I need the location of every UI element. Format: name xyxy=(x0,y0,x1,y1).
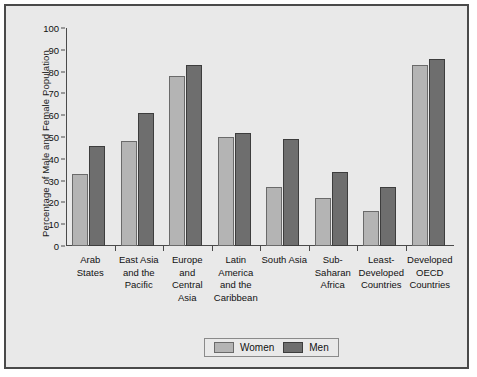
bar-group xyxy=(66,28,115,246)
bar-group xyxy=(406,28,455,246)
y-axis-tick-mark xyxy=(61,158,65,159)
x-axis-separator xyxy=(115,246,116,251)
bar-women xyxy=(363,211,379,246)
x-axis-separator xyxy=(309,246,310,251)
bar-group xyxy=(357,28,406,246)
bar-women xyxy=(315,198,331,246)
bar-men xyxy=(380,187,396,246)
y-axis-tick-mark xyxy=(61,137,65,138)
bar-men xyxy=(186,65,202,246)
legend-swatch-women xyxy=(214,342,234,353)
bar-men xyxy=(138,113,154,246)
y-axis-tick-mark xyxy=(61,71,65,72)
bar-women xyxy=(169,76,185,246)
plot-area: 1009080706050403020100 xyxy=(66,28,454,246)
bar-group xyxy=(163,28,212,246)
bar-men xyxy=(429,59,445,246)
bar-group xyxy=(260,28,309,246)
bar-men xyxy=(332,172,348,246)
y-axis-tick-mark xyxy=(61,49,65,50)
x-axis-label: DevelopedOECDCountries xyxy=(402,254,458,292)
bar-group xyxy=(115,28,164,246)
y-axis-tick-mark xyxy=(61,28,65,29)
legend-item-men: Men xyxy=(283,342,328,353)
chart-frame: Percentage of Male and Female Population… xyxy=(4,4,469,369)
x-axis-separator xyxy=(406,246,407,251)
y-axis-tick-mark xyxy=(61,93,65,94)
bar-men xyxy=(89,146,105,246)
y-axis-tick-mark xyxy=(61,202,65,203)
bar-women xyxy=(72,174,88,246)
y-axis-tick-mark xyxy=(61,115,65,116)
bar-women xyxy=(266,187,282,246)
legend-swatch-men xyxy=(283,342,303,353)
legend-label-men: Men xyxy=(309,342,328,353)
x-axis-separator xyxy=(163,246,164,251)
bar-women xyxy=(121,141,137,246)
x-axis-separator xyxy=(212,246,213,251)
bar-women xyxy=(412,65,428,246)
x-axis-separator xyxy=(260,246,261,251)
bar-group xyxy=(212,28,261,246)
bar-men xyxy=(235,133,251,246)
chart-legend: Women Men xyxy=(204,338,339,357)
x-axis-separator xyxy=(357,246,358,251)
legend-label-women: Women xyxy=(240,342,274,353)
bar-group xyxy=(309,28,358,246)
y-axis-tick-mark xyxy=(61,180,65,181)
y-axis-tick-mark xyxy=(61,246,65,247)
bar-women xyxy=(218,137,234,246)
y-axis-tick-mark xyxy=(61,224,65,225)
legend-item-women: Women xyxy=(214,342,274,353)
bar-men xyxy=(283,139,299,246)
